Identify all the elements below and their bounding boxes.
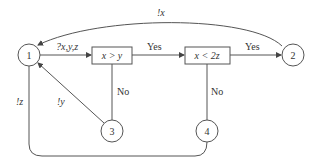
label-output-y: !y (57, 96, 65, 107)
condition-x-gt-y: x > y (92, 47, 132, 64)
node-4: 4 (196, 120, 218, 142)
node-2: 2 (282, 44, 304, 66)
label-cond1-yes: Yes (147, 41, 162, 52)
label-cond2-yes: Yes (245, 41, 260, 52)
label-input-xyz: ?x,y,z (56, 41, 78, 52)
label-cond2-no: No (211, 86, 223, 97)
edge-n3-to-n1 (38, 63, 104, 123)
flowchart-canvas: ?x,y,z Yes Yes No No !x !y !z 1 2 3 4 x … (0, 0, 318, 167)
label-cond1-no: No (117, 86, 129, 97)
node-1-label: 1 (27, 50, 32, 61)
condition-x-lt-2z: x < 2z (185, 47, 230, 64)
node-4-label: 4 (205, 126, 210, 137)
node-2-label: 2 (291, 50, 296, 61)
node-3: 3 (101, 120, 123, 142)
condition-1-label: x > y (101, 50, 123, 61)
node-1: 1 (18, 44, 40, 66)
condition-2-label: x < 2z (193, 50, 219, 61)
label-output-x: !x (157, 7, 165, 18)
label-output-z: !z (16, 96, 23, 107)
node-3-label: 3 (110, 126, 115, 137)
